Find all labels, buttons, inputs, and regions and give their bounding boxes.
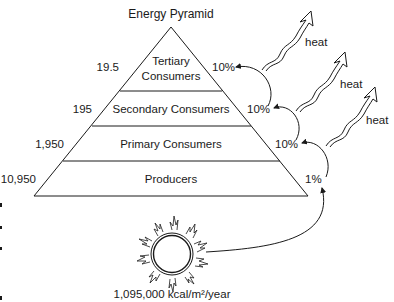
- tier-label-tertiary-line2: Consumers: [142, 70, 201, 82]
- heat-label-1: heat: [305, 36, 328, 48]
- arrow-sun-to-producers: [206, 188, 324, 252]
- efficiency-secondary: 10%: [247, 103, 270, 115]
- efficiency-producers: 1%: [305, 173, 322, 185]
- energy-value-secondary: 195: [73, 103, 92, 115]
- tier-label-primary: Primary Consumers: [120, 138, 222, 150]
- energy-pyramid-diagram: Energy Pyramid Tertiary Consumers Second…: [0, 0, 394, 302]
- arrow-producers-to-primary: [302, 142, 328, 177]
- tier-label-tertiary-line1: Tertiary: [152, 55, 190, 67]
- energy-value-tertiary: 19.5: [97, 61, 119, 73]
- heat-label-2: heat: [340, 78, 363, 90]
- transfer-arrows: [206, 66, 328, 252]
- energy-value-producers: 10,950: [1, 173, 36, 185]
- tier-label-secondary: Secondary Consumers: [113, 103, 230, 115]
- arrow-primary-to-secondary: [274, 107, 299, 140]
- arrow-secondary-to-tertiary: [236, 66, 271, 106]
- sun-energy-label: 1,095,000 kcal/m²/year: [114, 288, 231, 300]
- diagram-title: Energy Pyramid: [128, 7, 213, 21]
- efficiency-primary: 10%: [275, 138, 298, 150]
- tier-label-producers: Producers: [145, 173, 198, 185]
- energy-value-primary: 1,950: [35, 138, 64, 150]
- efficiency-tertiary: 10%: [212, 61, 235, 73]
- sun-icon: [137, 216, 208, 292]
- heat-label-3: heat: [366, 114, 389, 126]
- edge-artifacts: [0, 203, 2, 300]
